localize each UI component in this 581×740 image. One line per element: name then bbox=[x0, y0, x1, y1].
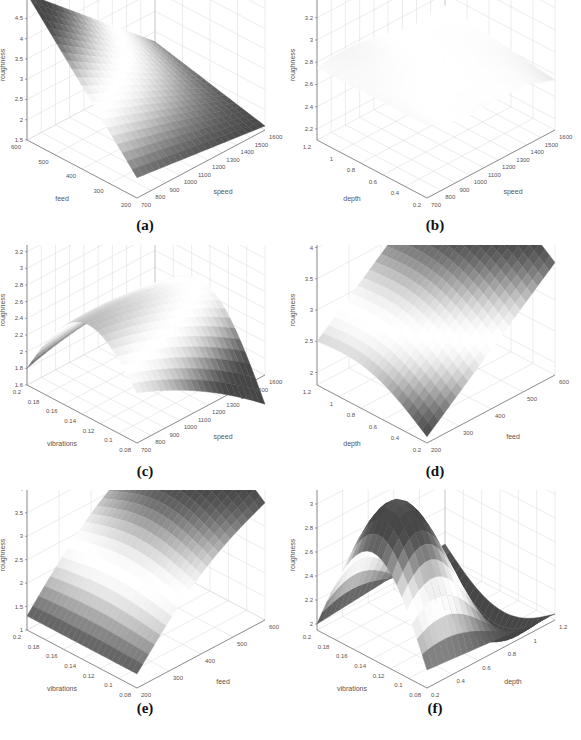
surface-plot-e: 2003004005006000.080.10.120.140.160.180.… bbox=[0, 490, 290, 705]
svg-text:1200: 1200 bbox=[212, 164, 226, 170]
svg-text:1000: 1000 bbox=[184, 179, 198, 185]
svg-text:700: 700 bbox=[141, 447, 152, 453]
svg-text:1100: 1100 bbox=[488, 172, 502, 178]
svg-text:700: 700 bbox=[431, 202, 442, 208]
svg-text:depth: depth bbox=[343, 195, 361, 203]
svg-text:1100: 1100 bbox=[198, 417, 212, 423]
svg-text:0.08: 0.08 bbox=[119, 447, 131, 453]
svg-text:300: 300 bbox=[463, 430, 474, 436]
svg-text:0.8: 0.8 bbox=[508, 651, 517, 657]
svg-text:2: 2 bbox=[20, 349, 24, 355]
surface-plot-f: 0.20.40.60.811.20.080.10.120.140.160.180… bbox=[290, 490, 580, 705]
svg-text:900: 900 bbox=[459, 187, 470, 193]
svg-text:roughness: roughness bbox=[0, 538, 7, 571]
svg-text:depth: depth bbox=[343, 440, 361, 448]
svg-text:0.2: 0.2 bbox=[413, 447, 422, 453]
svg-text:500: 500 bbox=[527, 396, 538, 402]
svg-text:1.2: 1.2 bbox=[559, 624, 568, 630]
svg-text:speed: speed bbox=[213, 188, 232, 196]
svg-text:1200: 1200 bbox=[212, 409, 226, 415]
svg-text:0.12: 0.12 bbox=[83, 673, 95, 679]
svg-text:3.5: 3.5 bbox=[15, 56, 24, 62]
svg-text:0.6: 0.6 bbox=[482, 665, 491, 671]
svg-text:1100: 1100 bbox=[198, 172, 212, 178]
svg-text:1400: 1400 bbox=[241, 394, 255, 400]
svg-text:1: 1 bbox=[533, 638, 537, 644]
svg-text:roughness: roughness bbox=[290, 538, 297, 571]
svg-text:1500: 1500 bbox=[255, 142, 269, 148]
svg-text:0.18: 0.18 bbox=[318, 644, 330, 650]
svg-text:0.8: 0.8 bbox=[347, 167, 356, 173]
svg-text:0.2: 0.2 bbox=[413, 202, 422, 208]
svg-text:2.4: 2.4 bbox=[15, 315, 24, 321]
svg-text:0.18: 0.18 bbox=[28, 644, 40, 650]
svg-text:600: 600 bbox=[559, 379, 570, 385]
svg-text:1600: 1600 bbox=[269, 134, 283, 140]
svg-text:2.2: 2.2 bbox=[305, 597, 314, 603]
svg-text:400: 400 bbox=[495, 413, 506, 419]
svg-text:1400: 1400 bbox=[531, 149, 545, 155]
svg-text:300: 300 bbox=[173, 675, 184, 681]
svg-text:800: 800 bbox=[155, 439, 166, 445]
svg-text:0.16: 0.16 bbox=[46, 653, 58, 659]
plot-e: 2003004005006000.080.10.120.140.160.180.… bbox=[0, 490, 290, 735]
svg-text:900: 900 bbox=[169, 187, 180, 193]
svg-text:vibrations: vibrations bbox=[47, 440, 77, 447]
svg-text:600: 600 bbox=[11, 144, 22, 150]
svg-text:500: 500 bbox=[237, 641, 248, 647]
svg-text:700: 700 bbox=[141, 202, 152, 208]
svg-text:roughness: roughness bbox=[290, 48, 297, 81]
svg-text:3: 3 bbox=[310, 37, 314, 43]
svg-text:1300: 1300 bbox=[226, 157, 240, 163]
svg-text:2.2: 2.2 bbox=[305, 126, 314, 132]
svg-text:600: 600 bbox=[269, 624, 280, 630]
caption-a: (a) bbox=[0, 217, 290, 234]
svg-text:2.2: 2.2 bbox=[15, 332, 24, 338]
surface-plot-a: 7008009001000110012001300140015001600200… bbox=[0, 0, 290, 215]
svg-text:2.6: 2.6 bbox=[305, 81, 314, 87]
svg-text:2: 2 bbox=[20, 580, 24, 586]
svg-text:feed: feed bbox=[506, 433, 520, 440]
svg-text:1.8: 1.8 bbox=[15, 365, 24, 371]
svg-text:400: 400 bbox=[205, 658, 216, 664]
caption-d: (d) bbox=[290, 463, 580, 480]
svg-text:1000: 1000 bbox=[474, 179, 488, 185]
svg-text:0.1: 0.1 bbox=[104, 682, 113, 688]
svg-text:3: 3 bbox=[20, 76, 24, 82]
svg-text:2.5: 2.5 bbox=[15, 96, 24, 102]
svg-text:2.5: 2.5 bbox=[15, 557, 24, 563]
svg-text:2.8: 2.8 bbox=[305, 59, 314, 65]
svg-text:0.2: 0.2 bbox=[431, 692, 440, 698]
svg-text:0.08: 0.08 bbox=[119, 692, 131, 698]
svg-text:0.18: 0.18 bbox=[28, 399, 40, 405]
svg-text:speed: speed bbox=[213, 433, 232, 441]
plot-c: 70080090010001100120013001400150016000.0… bbox=[0, 245, 290, 490]
svg-text:2.6: 2.6 bbox=[305, 549, 314, 555]
svg-text:200: 200 bbox=[141, 692, 152, 698]
svg-text:0.08: 0.08 bbox=[409, 692, 421, 698]
svg-text:2.4: 2.4 bbox=[305, 573, 314, 579]
svg-text:0.1: 0.1 bbox=[394, 682, 403, 688]
svg-text:4: 4 bbox=[20, 490, 24, 492]
svg-text:1200: 1200 bbox=[502, 164, 516, 170]
svg-text:0.12: 0.12 bbox=[373, 673, 385, 679]
svg-text:1500: 1500 bbox=[545, 142, 559, 148]
svg-text:3: 3 bbox=[20, 265, 24, 271]
svg-text:1.5: 1.5 bbox=[15, 604, 24, 610]
svg-text:2.5: 2.5 bbox=[305, 338, 314, 344]
surface-plot-d: 2003004005006000.20.40.60.811.222.533.54… bbox=[290, 245, 580, 460]
svg-text:0.12: 0.12 bbox=[83, 428, 95, 434]
svg-text:3.2: 3.2 bbox=[15, 249, 24, 255]
svg-text:roughness: roughness bbox=[290, 293, 297, 326]
svg-text:4.5: 4.5 bbox=[15, 15, 24, 21]
svg-text:4: 4 bbox=[310, 245, 314, 251]
svg-text:1: 1 bbox=[20, 627, 24, 633]
svg-text:200: 200 bbox=[431, 447, 442, 453]
svg-text:0.16: 0.16 bbox=[336, 653, 348, 659]
svg-text:1300: 1300 bbox=[516, 157, 530, 163]
svg-text:feed: feed bbox=[55, 195, 69, 202]
svg-text:2.6: 2.6 bbox=[15, 299, 24, 305]
svg-text:3: 3 bbox=[310, 307, 314, 313]
svg-text:depth: depth bbox=[504, 678, 522, 686]
svg-text:3: 3 bbox=[310, 501, 314, 507]
